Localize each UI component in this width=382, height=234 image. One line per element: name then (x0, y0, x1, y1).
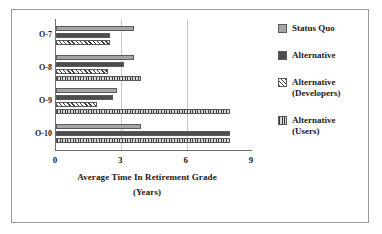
legend-swatch-developers-icon (278, 78, 287, 87)
bar-o-7-status-quo (56, 26, 134, 32)
bar-o-7-alternative-developers (56, 40, 110, 46)
legend-item-status-quo[interactable]: Status Quo (278, 23, 366, 34)
legend-item-alternative-users[interactable]: Alternative (Users) (278, 115, 366, 137)
bar-o-8-alternative (56, 62, 124, 68)
y-axis-category-labels: O-7O-8O-9O-10 (12, 19, 52, 150)
x-axis-tick-labels: 0369 (55, 155, 265, 167)
x-tick-3: 3 (118, 155, 123, 166)
bar-o-9-alternative-developers (56, 102, 97, 108)
y-axis-label-o-7: O-7 (39, 30, 52, 39)
chart-legend: Status Quo Alternative Alternative (Deve… (278, 23, 366, 153)
legend-label-developers: Alternative (Developers) (292, 77, 366, 99)
x-tick-0: 0 (53, 155, 58, 166)
plot-canvas (55, 19, 251, 150)
bar-o-10-alternative-users (56, 138, 230, 144)
legend-label-users: Alternative (Users) (292, 115, 366, 137)
bar-o-10-status-quo (56, 124, 141, 130)
legend-swatch-alternative-icon (278, 51, 287, 60)
x-axis-title: Average Time In Retirement Grade (Years) (32, 170, 262, 200)
bar-o-7-alternative (56, 33, 110, 39)
legend-label-status-quo: Status Quo (292, 23, 366, 34)
bar-o-9-alternative (56, 95, 113, 101)
legend-label-developers-line2: (Developers) (292, 88, 366, 99)
legend-item-alternative-developers[interactable]: Alternative (Developers) (278, 77, 366, 99)
legend-label-users-line1: Alternative (292, 115, 335, 125)
bar-o-9-status-quo (56, 88, 117, 94)
x-axis-title-line1: Average Time In Retirement Grade (77, 172, 217, 182)
legend-label-developers-line1: Alternative (292, 77, 335, 87)
legend-swatch-users-icon (278, 116, 287, 125)
chart-frame: O-7O-8O-9O-10 0369 Average Time In Retir… (11, 9, 369, 223)
x-axis-title-line2: (Years) (32, 185, 262, 200)
x-tick-9: 9 (249, 155, 254, 166)
bar-o-9-alternative-users (56, 109, 230, 115)
plot-area (55, 19, 255, 153)
bar-o-8-alternative-developers (56, 69, 108, 75)
y-axis-label-o-8: O-8 (39, 63, 52, 72)
bar-o-10-alternative (56, 131, 230, 137)
legend-item-alternative[interactable]: Alternative (278, 50, 366, 61)
y-axis-label-o-9: O-9 (39, 96, 52, 105)
legend-swatch-status-quo-icon (278, 24, 287, 33)
legend-label-users-line2: (Users) (292, 126, 366, 137)
y-axis-label-o-10: O-10 (35, 129, 52, 138)
legend-label-alternative: Alternative (292, 50, 366, 61)
bar-o-8-alternative-users (56, 76, 141, 82)
x-tick-6: 6 (183, 155, 188, 166)
bar-o-8-status-quo (56, 55, 134, 61)
x-axis-line (55, 150, 252, 151)
